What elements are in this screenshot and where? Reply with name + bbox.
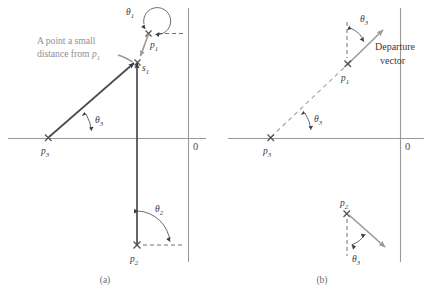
- panel-a-theta1-arc: [144, 8, 171, 35]
- panel-a-theta1-label: θ1: [126, 7, 134, 19]
- panel-b-p1-marker: [345, 61, 352, 68]
- panel-b-p1-label: p1: [340, 73, 349, 85]
- panel-b-theta3-p2-label: θ3: [352, 254, 361, 266]
- panel-b-p2-label: p2: [339, 198, 349, 210]
- panel-a-p1-to-s1-vector: [141, 34, 149, 56]
- panel-b-p3-label: p3: [262, 146, 272, 158]
- figure-container: 0 θ1 p1 s1: [0, 0, 428, 297]
- panel-b-caption: (b): [316, 275, 327, 286]
- panel-b: 0 p3 θ3 p1: [228, 8, 424, 286]
- panel-a-theta3-label: θ3: [95, 115, 104, 127]
- diagram-svg: 0 θ1 p1 s1: [0, 0, 428, 297]
- panel-a-origin-label: 0: [193, 141, 198, 152]
- panel-b-p3-to-p1-dashed: [271, 64, 348, 137]
- panel-a-theta1-arrowhead-left: [141, 25, 145, 30]
- panel-b-departure-label-line2: vector: [380, 55, 406, 66]
- panel-a-theta2-arc: [138, 211, 171, 242]
- panel-a-p3-label: p3: [40, 146, 50, 158]
- panel-a-s1-label: s1: [142, 63, 149, 75]
- panel-a-annotation-leader: [118, 55, 133, 62]
- panel-b-p2-departure-vector: [349, 215, 385, 247]
- panel-a-caption: (a): [100, 275, 111, 286]
- panel-b-theta3-bottom-arrowhead-lower: [309, 126, 314, 130]
- panel-b-theta3-bottom-arrowhead-upper: [301, 111, 305, 115]
- panel-a-annotation-line1: A point a small: [37, 35, 96, 46]
- panel-a-p3-to-s1-vector: [49, 63, 134, 137]
- panel-a-annotation-line2: distance from p1: [37, 48, 100, 61]
- panel-b-theta3-p2-arrowhead-left: [352, 245, 356, 250]
- panel-b-p3-marker: [268, 135, 275, 142]
- panel-a-theta1-arrowhead-right: [156, 32, 160, 37]
- panel-b-theta3-top-label: θ3: [360, 14, 369, 26]
- panel-b-origin-label: 0: [405, 141, 410, 152]
- panel-a-p2-label: p2: [129, 254, 139, 266]
- panel-b-departure-label-line1: Departure: [375, 41, 416, 52]
- panel-a-theta3-arrowhead-lower: [89, 127, 94, 131]
- panel-a: 0 θ1 p1 s1: [8, 7, 206, 286]
- panel-a-theta2-label: θ2: [155, 204, 164, 216]
- panel-a-p3-marker: [45, 135, 52, 142]
- panel-a-p1-label: p1: [149, 40, 158, 52]
- panel-b-theta3-top-arrowhead-left: [347, 26, 351, 30]
- panel-b-theta3-bottom-label: θ3: [314, 114, 323, 126]
- panel-a-theta3-arrowhead-upper: [82, 112, 86, 116]
